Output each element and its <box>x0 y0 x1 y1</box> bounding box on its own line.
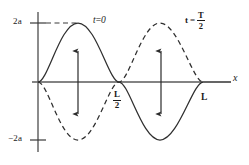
node-label-half-length-fraction: L 2 <box>113 90 121 110</box>
node-label-half-length: L 2 <box>113 90 121 110</box>
standing-wave-figure: 2a −2a t=0 t = T 2 L 2 L x <box>0 0 249 165</box>
curve-label-t-half-numerator: T <box>197 11 205 20</box>
node-label-length: L <box>201 93 207 103</box>
wave-plot-svg <box>0 0 249 165</box>
node-label-half-length-denominator: 2 <box>114 101 121 111</box>
curve-label-t-half-denominator: 2 <box>198 21 204 30</box>
amplitude-positive-label: 2a <box>13 17 22 26</box>
x-axis-label: x <box>233 73 237 83</box>
curve-label-t-zero-value: 0 <box>101 15 106 25</box>
curve-label-t-half-period: t = T 2 <box>185 11 205 30</box>
amplitude-negative-label: −2a <box>8 134 22 143</box>
curve-label-t-half-variable: t <box>185 16 188 25</box>
curve-label-t-half-fraction: T 2 <box>197 11 205 30</box>
curve-label-t-half-equals: = <box>190 16 195 25</box>
node-label-half-length-numerator: L <box>113 90 121 100</box>
curve-label-t-zero: t=0 <box>93 16 106 26</box>
